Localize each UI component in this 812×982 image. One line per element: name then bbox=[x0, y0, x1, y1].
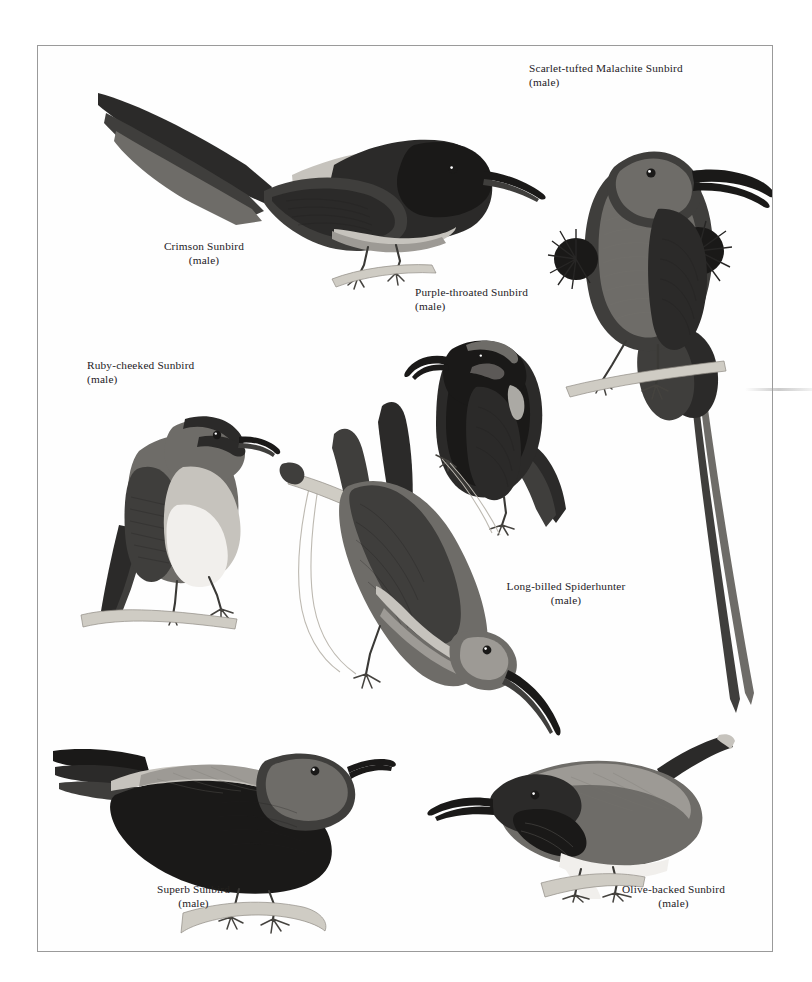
figure-olive-backed-sunbird bbox=[401, 707, 741, 902]
caption-superb-sunbird: Superb Sunbird (male) bbox=[111, 882, 276, 910]
figure-ruby-cheeked-sunbird bbox=[81, 375, 281, 630]
species-name: Scarlet-tufted Malachite Sunbird bbox=[529, 62, 683, 74]
species-sex: (male) bbox=[471, 593, 661, 607]
species-name: Superb Sunbird bbox=[157, 883, 230, 895]
caption-ruby-cheeked-sunbird: Ruby-cheeked Sunbird (male) bbox=[87, 358, 242, 386]
species-sex: (male) bbox=[87, 372, 242, 386]
eye bbox=[646, 168, 655, 177]
caption-purple-throated-sunbird: Purple-throated Sunbird (male) bbox=[415, 285, 580, 313]
species-name: Purple-throated Sunbird bbox=[415, 286, 528, 298]
species-name: Crimson Sunbird bbox=[164, 240, 244, 252]
eye bbox=[478, 353, 486, 361]
species-name: Long-billed Spiderhunter bbox=[507, 580, 626, 592]
species-sex: (male) bbox=[415, 299, 580, 313]
eye bbox=[213, 431, 221, 439]
caption-olive-backed-sunbird: Olive-backed Sunbird (male) bbox=[586, 882, 761, 910]
caption-crimson-sunbird: Crimson Sunbird (male) bbox=[134, 239, 274, 267]
species-name: Ruby-cheeked Sunbird bbox=[87, 359, 194, 371]
species-sex: (male) bbox=[134, 253, 274, 267]
eye bbox=[449, 165, 458, 174]
illustration-plate: Crimson Sunbird (male) bbox=[37, 45, 773, 952]
caption-scarlet-tufted-malachite-sunbird: Scarlet-tufted Malachite Sunbird (male) bbox=[529, 61, 764, 89]
species-sex: (male) bbox=[529, 75, 764, 89]
eye bbox=[311, 767, 320, 776]
caption-long-billed-spiderhunter: Long-billed Spiderhunter (male) bbox=[471, 579, 661, 607]
figure-superb-sunbird bbox=[53, 691, 393, 901]
species-sex: (male) bbox=[586, 896, 761, 910]
eye bbox=[531, 791, 540, 800]
species-name: Olive-backed Sunbird bbox=[622, 883, 725, 895]
eye bbox=[483, 646, 492, 655]
species-sex: (male) bbox=[111, 896, 276, 910]
figure-long-billed-spiderhunter bbox=[256, 376, 606, 741]
